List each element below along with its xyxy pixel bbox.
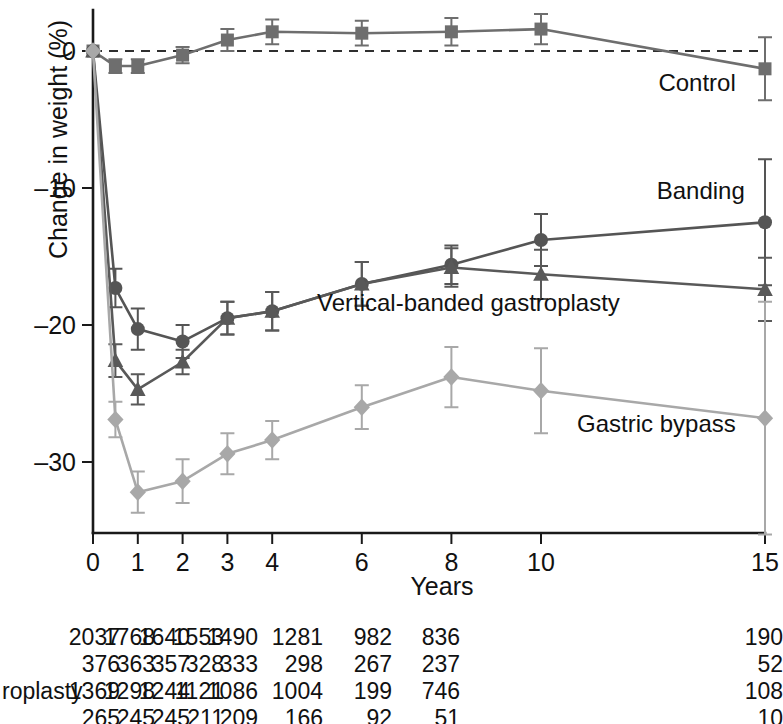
data-point-marker	[266, 25, 279, 38]
table-cell: 267	[354, 651, 392, 677]
data-point-marker	[757, 409, 773, 427]
x-tick-label: 10	[527, 548, 555, 576]
table-cell: 982	[354, 624, 392, 650]
weight-change-line-chart: ControlBandingVertical-banded gastroplas…	[0, 0, 783, 724]
data-point-marker	[445, 25, 458, 38]
data-point-marker	[108, 352, 124, 367]
data-point-marker	[219, 445, 235, 463]
series-label-gastric-bypass: Gastric bypass	[577, 410, 736, 437]
data-point-marker	[534, 233, 548, 247]
table-cell: 190	[745, 624, 783, 650]
table-cell: 209	[220, 705, 258, 724]
x-tick-label: 6	[355, 548, 369, 576]
y-tick-label: –30	[34, 448, 76, 476]
table-cell: 1086	[207, 678, 258, 704]
x-axis-title: Years	[410, 572, 473, 600]
x-tick-label: 4	[265, 548, 279, 576]
data-point-marker	[131, 60, 144, 73]
chart-figure: Change in weight (%) ControlBandingVerti…	[0, 0, 783, 724]
series-label-vertical-banded-gastroplasty: Vertical-banded gastroplasty	[317, 289, 620, 316]
at-risk-table: 2037176816401553149012819828361903763633…	[2, 624, 783, 724]
table-cell: 10	[757, 705, 783, 724]
data-point-marker	[221, 34, 234, 47]
series-vertical-banded-gastroplasty	[85, 43, 773, 405]
x-tick-label: 15	[751, 548, 779, 576]
data-point-marker	[533, 382, 549, 400]
x-tick-label: 3	[220, 548, 234, 576]
table-cell: 237	[422, 651, 460, 677]
table-cell: 245	[152, 705, 190, 724]
data-point-marker	[354, 398, 370, 416]
table-cell: 376	[82, 651, 120, 677]
series-labels: ControlBandingVertical-banded gastroplas…	[317, 69, 745, 437]
series-label-control: Control	[658, 69, 735, 96]
series-line	[93, 29, 765, 69]
table-cell: 51	[434, 705, 460, 724]
data-point-marker	[107, 411, 123, 429]
table-cell: 211	[187, 705, 224, 724]
data-point-marker	[264, 431, 280, 449]
y-tick-label: –10	[34, 174, 76, 202]
table-cell: 1490	[207, 624, 258, 650]
table-cell: 836	[422, 624, 460, 650]
table-cell: 265	[82, 705, 120, 724]
table-cell: 363	[117, 651, 155, 677]
table-cell: 166	[285, 705, 323, 724]
data-point-marker	[759, 62, 772, 75]
data-point-marker	[131, 322, 145, 336]
table-cell: 52	[757, 651, 783, 677]
table-cell: 92	[366, 705, 392, 724]
series-label-banding: Banding	[657, 177, 745, 204]
data-point-marker	[758, 215, 772, 229]
data-point-marker	[130, 483, 146, 501]
table-cell: 1281	[272, 624, 323, 650]
x-tick-label: 0	[86, 548, 100, 576]
data-point-marker	[443, 368, 459, 386]
data-point-marker	[535, 23, 548, 36]
data-point-marker	[174, 472, 190, 490]
table-cell: 333	[220, 651, 258, 677]
x-tick-label: 1	[131, 548, 145, 576]
table-cell: 199	[354, 678, 392, 704]
y-tick-label: 0	[62, 37, 76, 65]
series-line	[93, 51, 765, 389]
data-point-marker	[355, 27, 368, 40]
table-cell: 1004	[272, 678, 323, 704]
table-cell: 328	[186, 651, 224, 677]
table-cell: 746	[422, 678, 460, 704]
data-point-marker	[109, 60, 122, 73]
table-cell: 108	[745, 678, 783, 704]
table-cell: 357	[152, 651, 190, 677]
data-point-marker	[176, 334, 190, 348]
x-tick-label: 2	[176, 548, 190, 576]
y-tick-label: –20	[34, 311, 76, 339]
table-cell: 298	[285, 651, 323, 677]
data-point-marker	[176, 49, 189, 62]
table-cell: 245	[117, 705, 155, 724]
